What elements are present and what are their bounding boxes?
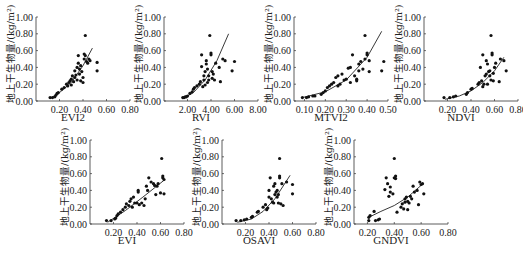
data-point [219,80,222,83]
data-point [366,52,369,55]
x-axis-label: EVI [77,234,177,246]
data-point [349,66,352,69]
scatter-panel-ndvi: 0.000.200.400.600.801.000.200.400.600.80… [388,0,523,125]
data-point [479,66,482,69]
data-point [413,191,416,194]
data-point [160,157,163,160]
data-point [66,84,69,87]
data-point [272,201,275,204]
data-point [162,178,165,181]
y-tick-label: 0.20 [16,79,34,90]
data-point [291,183,294,186]
y-tick-label: 0.80 [274,28,292,39]
y-tick-label: 1.00 [16,12,34,23]
scatter-panel-mtvi2: 0.000.200.400.600.801.000.100.200.300.40… [258,0,393,125]
data-point [492,79,495,82]
scatter-panel-evi: 0.000.200.400.600.801.000.200.400.600.80… [54,123,189,248]
data-point [482,83,485,86]
data-point [245,217,248,220]
y-axis-label: 地上干生物量/(kg/m²) [391,5,405,103]
scatter-panel-gndvi: 0.000.200.400.600.801.000.200.400.600.80… [318,123,453,248]
data-point [233,60,236,63]
data-point [498,80,501,83]
data-point [145,185,148,188]
fit-curve [302,31,381,97]
y-tick-label: 0.20 [70,202,88,213]
data-point [132,196,135,199]
data-point [144,197,147,200]
data-point [422,192,425,195]
data-point [84,34,87,37]
data-point [355,79,358,82]
data-point [351,53,354,56]
data-point [402,207,405,210]
y-tick-label: 1.00 [144,12,162,23]
data-point [207,74,210,77]
y-tick-label: 0.40 [334,185,352,196]
data-point [214,62,217,65]
data-point [206,68,209,71]
y-tick-label: 0.00 [404,96,422,107]
data-point [202,78,205,81]
data-point [200,65,203,68]
data-point [212,73,215,76]
data-point [417,203,420,206]
y-tick-label: 0.80 [202,151,220,162]
data-point [395,211,398,214]
data-point [499,57,502,60]
plot-area: 0.000.200.400.600.801.000.100.200.300.40… [258,0,393,125]
y-tick-label: 0.00 [274,96,292,107]
data-point [70,83,73,86]
data-point [96,69,99,72]
data-point [276,189,279,192]
data-point [142,204,145,207]
data-point [200,53,203,56]
data-point [146,189,149,192]
y-tick-label: 0.40 [404,62,422,73]
data-point [359,60,362,63]
data-point [77,62,80,65]
data-point [383,188,386,191]
y-axis-label: 地上干生物量/(kg/m²) [261,5,275,103]
data-point [489,34,492,37]
data-point [491,52,494,55]
data-point [442,96,445,99]
data-point [285,180,288,183]
y-tick-label: 0.40 [202,185,220,196]
data-point [131,206,134,209]
data-point [353,74,356,77]
y-tick-label: 0.60 [274,45,292,56]
data-point [218,66,221,69]
y-tick-label: 0.60 [404,45,422,56]
data-point [88,59,91,62]
data-point [266,206,269,209]
data-point [332,81,335,84]
data-point [369,214,372,217]
data-point [494,62,497,65]
scatter-panel-osavi: 0.000.200.400.600.801.000.200.400.600.80… [186,123,321,248]
data-point [412,185,415,188]
data-point [393,157,396,160]
x-tick-label: 0.80 [509,104,523,115]
data-point [480,79,483,82]
plot-area: 0.000.200.400.600.801.002.004.006.008.00 [128,0,263,125]
data-point [406,208,409,211]
data-point [84,54,87,57]
data-point [81,81,84,84]
data-point [324,89,327,92]
y-axis-label: 地上干生物量/(kg/m²) [131,5,145,103]
data-point [235,219,238,222]
scatter-panel-evi2: 0.000.200.400.600.801.000.200.400.600.80… [0,0,135,125]
data-point [204,70,207,73]
data-point [378,217,381,220]
y-axis-label: 地上干生物量/(kg/m²) [57,128,71,226]
data-point [340,73,343,76]
y-tick-label: 1.00 [334,135,352,146]
data-point [401,202,404,205]
plot-area: 0.000.200.400.600.801.000.200.400.600.80 [388,0,523,125]
y-tick-label: 0.20 [144,79,162,90]
data-point [410,197,413,200]
y-tick-label: 0.80 [70,151,88,162]
scatter-panel-rvi: 0.000.200.400.600.801.002.004.006.008.00… [128,0,263,125]
data-point [277,193,280,196]
